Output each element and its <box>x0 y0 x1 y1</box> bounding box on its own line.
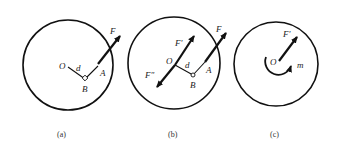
label-A: A <box>205 65 212 75</box>
perpendicular-BA <box>193 62 205 75</box>
label-d: d <box>185 60 190 70</box>
force-F-arrow <box>98 36 120 64</box>
label-B: B <box>82 84 88 94</box>
panel-b: O d B A F F' F" (b) <box>128 17 226 139</box>
label-O: O <box>270 57 277 67</box>
label-A: A <box>99 68 106 78</box>
disk-circle <box>23 20 113 110</box>
label-F: F <box>215 24 222 34</box>
caption-a: (a) <box>57 130 66 139</box>
caption-c: (c) <box>270 130 279 139</box>
label-F-prime: F' <box>282 29 291 39</box>
label-O: O <box>166 56 173 66</box>
panel-c: O F' m (c) <box>234 22 318 139</box>
force-F-arrow <box>205 33 226 62</box>
label-F-double-prime: F" <box>144 70 154 80</box>
label-B: B <box>190 80 196 90</box>
force-F-prime-arrow <box>279 37 297 61</box>
label-d: d <box>76 63 81 73</box>
right-angle-marker <box>82 75 88 81</box>
label-F: F <box>109 26 116 36</box>
label-m: m <box>297 60 304 70</box>
caption-b: (b) <box>168 130 178 139</box>
force-translation-diagram: O d B A F (a) O d B A F F' F" (b) O F' m… <box>0 0 340 154</box>
label-O: O <box>59 61 66 71</box>
label-F-prime: F' <box>174 38 183 48</box>
point-B-marker <box>191 73 195 77</box>
disk-circle <box>128 17 220 109</box>
panel-a: O d B A F (a) <box>23 20 120 139</box>
lever-arm-OB <box>175 65 193 75</box>
force-F-double-prime-arrow <box>157 65 175 87</box>
